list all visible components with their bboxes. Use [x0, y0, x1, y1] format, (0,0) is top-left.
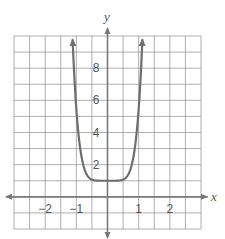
y-tick-label: 4 — [93, 126, 100, 140]
x-tick-label: 2 — [166, 202, 173, 216]
curve-right-branch — [108, 39, 143, 181]
y-tick-label: 2 — [93, 158, 100, 172]
x-axis-label: x — [210, 189, 217, 204]
x-tick-label: −1 — [69, 202, 83, 216]
function-graph: −2−1122468 x y — [0, 0, 225, 239]
y-tick-label: 6 — [93, 93, 100, 107]
y-axis-label: y — [102, 9, 110, 24]
y-tick-label: 8 — [93, 61, 100, 75]
axes — [6, 28, 208, 238]
x-tick-label: −2 — [38, 202, 52, 216]
curve-left-branch — [73, 39, 108, 181]
x-tick-label: 1 — [135, 202, 142, 216]
